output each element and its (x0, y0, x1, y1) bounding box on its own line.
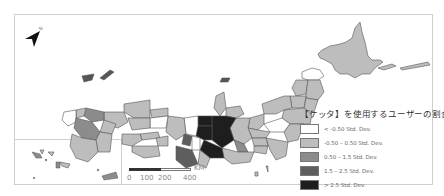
region-toyama (226, 106, 244, 118)
region-shimane (124, 100, 150, 118)
legend-swatch (300, 166, 319, 176)
region-akita (292, 80, 308, 96)
scale-tick-label: 0 (127, 174, 131, 182)
scale-bar-fill (129, 168, 161, 171)
legend-label: 0.50 – 1.5 Std. Dev. (324, 154, 378, 160)
legend-label: -0.50 – 0.50 Std. Dev. (324, 140, 383, 146)
region-okayama (150, 116, 168, 128)
legend-swatch (300, 180, 319, 190)
legend-label: 1.5 – 2.5 Std. Dev. (324, 168, 374, 174)
legend-swatch (300, 138, 319, 148)
region-kochi (132, 146, 160, 158)
legend-label: > 2.5 Std. Dev. (324, 182, 366, 188)
scale-tick-label: 200 (158, 174, 171, 182)
region-ehime (122, 134, 142, 146)
region-hokkaido (318, 22, 383, 78)
scale-unit: KM (194, 164, 205, 172)
legend-row: 0.50 – 1.5 Std. Dev. (300, 150, 440, 164)
region-hyogo (166, 116, 186, 140)
region-fukuoka (84, 108, 104, 122)
region-fukui (198, 116, 212, 126)
legend-title: 【ケッタ】を使用するユーザーの割合 (300, 107, 440, 119)
legend-row: 1.5 – 2.5 Std. Dev. (300, 164, 440, 178)
legend-row: -0.50 – 0.50 Std. Dev. (300, 136, 440, 150)
region-nagasaki (62, 110, 76, 126)
region-hiroshima (128, 118, 150, 130)
legend-swatch (300, 124, 319, 134)
scale-tick-label: 100 (140, 174, 153, 182)
svg-text:N: N (38, 25, 44, 32)
region-gunma (248, 114, 264, 130)
scale-tick-label: 400 (183, 174, 196, 182)
north-arrow-icon: N (24, 25, 46, 49)
region-chiba (266, 138, 288, 160)
legend: 【ケッタ】を使用するユーザーの割合 < -0.50 Std. Dev. -0.5… (300, 107, 440, 192)
region-ishikawa (214, 92, 226, 116)
region-tokushima (156, 136, 168, 146)
legend-swatch (300, 152, 319, 162)
region-osaka (182, 134, 192, 146)
region-kanagawa (254, 146, 268, 154)
region-iwate (306, 80, 324, 100)
region-tokyo (252, 138, 268, 146)
region-aomori (302, 68, 324, 80)
legend-row: > 2.5 Std. Dev. (300, 178, 440, 192)
legend-label: < -0.50 Std. Dev. (324, 126, 371, 132)
legend-row: < -0.50 Std. Dev. (300, 122, 440, 136)
region-nara (192, 136, 200, 150)
north-arrow: N (24, 25, 46, 53)
region-miyazaki (96, 132, 112, 152)
